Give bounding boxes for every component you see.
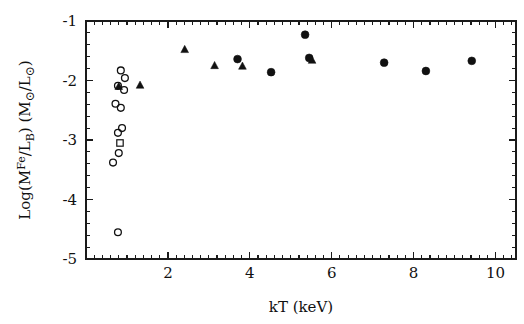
- x-tick-label: 4: [245, 264, 255, 282]
- figure-container: 246810 -1-2-3-4-5 kT (keV) Log(MFe/LB) (…: [0, 0, 524, 324]
- data-point-open-circle: [110, 159, 117, 166]
- data-point-open-circle: [119, 125, 126, 132]
- data-point-filled-circle: [305, 54, 313, 62]
- data-point-filled-triangle: [181, 45, 189, 52]
- ylabel-units-open: (M: [16, 101, 34, 127]
- ylabel-units-close: ): [16, 60, 34, 66]
- scatter-plot: 246810 -1-2-3-4-5 kT (keV) Log(MFe/LB) (…: [0, 0, 524, 324]
- ylabel-slash-lb: /L: [16, 141, 34, 156]
- svg-text:Log(MFe/LB) (M⊙/L⊙): Log(MFe/LB) (M⊙/L⊙): [15, 60, 37, 219]
- ylabel-units-slash: /L: [16, 76, 34, 91]
- data-point-open-circle: [117, 67, 124, 74]
- ylabel-sun2: ⊙: [23, 66, 37, 76]
- ylabel-sup-fe: Fe: [15, 156, 28, 170]
- y-tick-label: -2: [62, 72, 77, 90]
- x-tick-label: 8: [409, 264, 419, 282]
- y-tick-labels: -1-2-3-4-5: [62, 12, 77, 268]
- series-open-square: [117, 140, 123, 146]
- series-filled-triangle: [115, 45, 316, 89]
- axis-frame: [86, 21, 516, 259]
- x-tick-labels: 246810: [163, 264, 505, 282]
- y-axis-label: Log(MFe/LB) (M⊙/L⊙): [15, 60, 37, 219]
- data-point-filled-circle: [301, 31, 309, 39]
- data-point-filled-triangle: [211, 61, 219, 68]
- data-point-open-circle: [117, 104, 124, 111]
- data-point-filled-circle: [468, 57, 476, 65]
- tick-marks: [86, 21, 516, 259]
- data-point-filled-circle: [267, 68, 275, 76]
- series-filled-circle: [234, 31, 476, 76]
- data-point-filled-circle: [380, 59, 388, 67]
- ylabel-log-open: Log(M: [16, 170, 34, 220]
- data-point-filled-circle: [422, 67, 430, 75]
- x-tick-label: 2: [163, 264, 173, 282]
- ylabel-sun1: ⊙: [23, 91, 37, 101]
- data-point-open-circle: [115, 150, 122, 157]
- data-point-open-circle: [115, 229, 122, 236]
- series-open-circle: [110, 67, 129, 236]
- data-markers: [110, 31, 476, 236]
- y-tick-label: -1: [62, 12, 77, 30]
- y-tick-label: -5: [62, 250, 77, 268]
- x-axis-label: kT (keV): [269, 298, 333, 316]
- data-point-open-square: [117, 140, 123, 146]
- data-point-filled-triangle: [239, 62, 247, 69]
- plot-frame: [86, 21, 516, 259]
- y-tick-label: -3: [62, 131, 77, 149]
- x-tick-label: 6: [327, 264, 337, 282]
- y-tick-label: -4: [62, 191, 77, 209]
- ylabel-sub-b: B: [24, 133, 37, 141]
- data-point-filled-triangle: [136, 81, 144, 88]
- data-point-filled-circle: [234, 55, 242, 63]
- data-point-open-circle: [122, 75, 129, 82]
- x-tick-label: 10: [486, 264, 505, 282]
